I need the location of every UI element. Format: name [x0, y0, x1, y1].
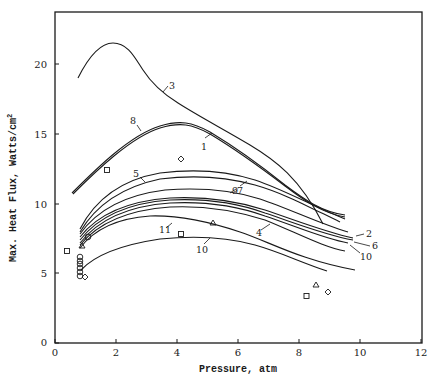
curve-label-1: 1 — [201, 141, 207, 152]
x-tick-label: 2 — [113, 347, 119, 358]
curve-1 — [73, 125, 345, 217]
curve-label-6: 6 — [372, 240, 378, 251]
x-tick-label: 6 — [235, 347, 241, 358]
y-axis-title: Max. Heat Flux, Watts/cm2 — [6, 114, 19, 262]
diamond-marker — [325, 289, 331, 295]
curve-label-10: 10 — [196, 244, 208, 255]
square-marker — [105, 168, 110, 173]
y-tick-label: 5 — [41, 268, 47, 279]
x-tick-label: 8 — [296, 347, 302, 358]
x-tick-label: 12 — [415, 347, 428, 358]
x-axis-title: Pressure, atm — [199, 364, 277, 375]
x-tick-label: 4 — [174, 347, 180, 358]
curve-label-2: 2 — [366, 228, 372, 239]
x-tick-label: 10 — [354, 347, 367, 358]
plot-frame — [55, 12, 422, 343]
curve-label-3: 3 — [169, 80, 175, 91]
curves — [72, 43, 355, 271]
curve-label-11: 11 — [159, 224, 171, 235]
x-tick-label: 0 — [52, 347, 58, 358]
curve-label-8: 8 — [130, 115, 136, 126]
curve-label-4: 4 — [256, 227, 262, 238]
y-axis: 0 5 10 15 20 Max. Heat Flux, Watts/cm2 — [6, 59, 59, 348]
square-marker — [304, 294, 309, 299]
y-tick-label: 20 — [34, 59, 47, 70]
square-marker — [65, 249, 70, 254]
y-tick-label: 10 — [34, 199, 47, 210]
heat-flux-chart: 0 2 4 6 8 10 12 Pressure, atm 0 5 10 15 … — [0, 0, 441, 382]
curve-label-7: 7 — [237, 185, 243, 196]
y-tick-label: 0 — [41, 337, 47, 348]
x-axis: 0 2 4 6 8 10 12 Pressure, atm — [52, 339, 428, 375]
diamond-marker — [178, 156, 184, 162]
square-marker — [179, 232, 184, 237]
triangle-marker — [313, 282, 319, 287]
y-tick-label: 15 — [34, 129, 47, 140]
curve-6 — [80, 200, 353, 240]
curve-label-5: 5 — [133, 168, 139, 179]
curve-11 — [80, 216, 355, 270]
circle-marker — [77, 273, 83, 279]
curve-label-10-upper: 10 — [360, 251, 372, 262]
